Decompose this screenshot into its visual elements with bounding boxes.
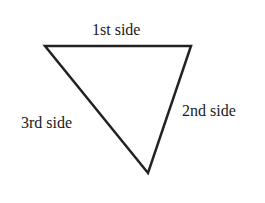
label-2nd-side: 2nd side: [182, 103, 236, 119]
label-1st-side: 1st side: [92, 22, 140, 38]
label-3rd-side: 3rd side: [21, 115, 72, 131]
triangle: [45, 46, 191, 173]
